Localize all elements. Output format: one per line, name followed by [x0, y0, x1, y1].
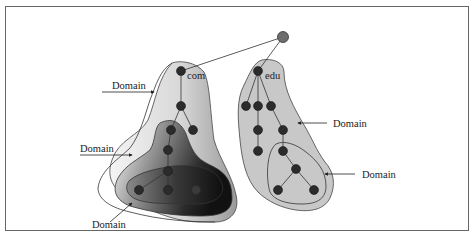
node [292, 165, 301, 174]
node [242, 102, 251, 111]
node [254, 126, 263, 135]
node [192, 186, 201, 195]
node [267, 102, 276, 111]
com-subsub-domain-callout: Domain [92, 219, 127, 230]
node [164, 186, 173, 195]
node [135, 186, 144, 195]
node-edu [254, 67, 263, 76]
com-domain-callout: Domain [112, 80, 147, 91]
figure-frame [6, 7, 469, 231]
node [279, 147, 288, 156]
node [177, 102, 186, 111]
edu-sub-domain-callout: Domain [362, 169, 397, 180]
node [164, 146, 173, 155]
node [254, 102, 263, 111]
edu-label: edu [265, 70, 281, 81]
node [167, 126, 176, 135]
com-sub-domain-callout: Domain [80, 143, 115, 154]
edu-domain-callout: Domain [333, 118, 368, 129]
node-com [177, 67, 186, 76]
node [274, 186, 283, 195]
node [279, 126, 288, 135]
node [189, 126, 198, 135]
node [254, 147, 263, 156]
node [310, 186, 319, 195]
dns-domain-diagram: com edu Domain Domain Domain Domain Doma… [0, 0, 476, 248]
com-label: com [187, 70, 205, 81]
node [164, 167, 173, 176]
root-node [278, 32, 289, 43]
